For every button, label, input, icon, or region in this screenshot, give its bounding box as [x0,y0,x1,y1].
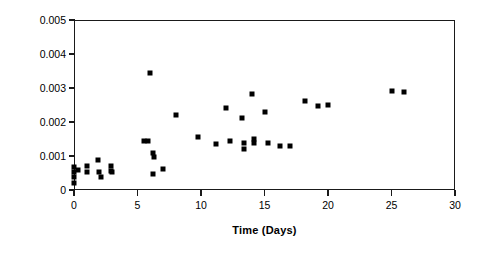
y-axis-tick-label: 0.005 [14,15,66,25]
x-axis-tick-mark [327,190,329,196]
x-axis-tick-mark [200,190,202,196]
x-axis-tick-label: 5 [118,199,158,211]
x-axis-tick-label: 10 [181,199,221,211]
x-axis-tick-label: 30 [435,199,475,211]
x-axis-tick-label: 20 [308,199,348,211]
scatter-plot-figure: B (1/µA) 00.0010.0020.0030.0040.005 0510… [0,0,480,253]
x-axis-tick-mark [137,190,139,196]
x-axis-title: Time (Days) [74,224,455,236]
y-axis-tick-label: 0.003 [14,83,66,93]
y-axis-tick-label: 0.002 [14,117,66,127]
x-axis-tick-mark [264,190,266,196]
x-axis-tick-label: 0 [54,199,94,211]
x-axis-tick-mark [73,190,75,196]
x-axis-tick-mark [391,190,393,196]
x-axis-tick-label: 15 [245,199,285,211]
y-axis-tick-label: 0.004 [14,49,66,59]
plot-area-frame [74,20,455,190]
y-axis-tick-label: 0 [14,185,66,195]
y-axis-tick-label: 0.001 [14,151,66,161]
x-axis-tick-mark [454,190,456,196]
x-axis-tick-label: 25 [372,199,412,211]
